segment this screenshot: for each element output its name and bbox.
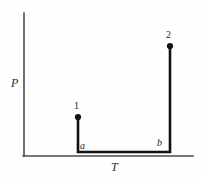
y-axis-label: P xyxy=(11,77,18,89)
corner-a-label: a xyxy=(80,141,85,151)
state-point-2-label: 2 xyxy=(166,30,171,40)
corner-b-label: b xyxy=(157,138,162,148)
state-point-1-label: 1 xyxy=(74,101,79,111)
x-axis-label: T xyxy=(111,161,118,173)
state-point-2-marker xyxy=(167,43,173,49)
state-point-1-marker xyxy=(75,114,81,120)
plot-canvas xyxy=(0,0,204,178)
pressure-temperature-diagram: P T 1 2 a b xyxy=(0,0,204,178)
